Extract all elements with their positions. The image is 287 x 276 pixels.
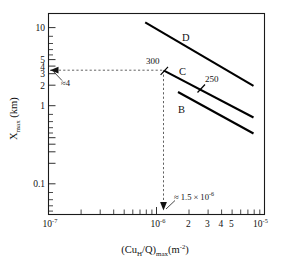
chart-canvas: 10 5 4 3 2 1 0.1 10-7 10-6 2 3 4 5 10-5 … bbox=[0, 0, 287, 276]
x-axis-title: (CuH/Q)max(m-2) bbox=[121, 243, 189, 257]
series-line-D bbox=[145, 22, 253, 86]
y-tick-label-1: 1 bbox=[40, 101, 45, 111]
x-tick-label-5: 5 bbox=[229, 219, 234, 229]
annotation-x-readout-text: ≈1.5×10-6 bbox=[174, 191, 214, 202]
annotation-y-readout: ≈4 bbox=[61, 78, 71, 88]
svg-text:(CuH/Q)max(m-2): (CuH/Q)max(m-2) bbox=[121, 243, 189, 257]
annotation-leaders bbox=[54, 72, 176, 210]
guide-arrowheads bbox=[50, 67, 167, 211]
x-tick-label-2: 2 bbox=[186, 219, 191, 229]
point-label-300: 300 bbox=[146, 56, 160, 66]
x-tick-label-1e-6: 10-6 bbox=[151, 217, 166, 229]
annotation-x-readout: ≈1.5×10-6 bbox=[174, 191, 214, 202]
y-axis-title: Xmax (km) bbox=[8, 97, 22, 140]
plot-frame bbox=[49, 14, 265, 215]
x-tick-label-1e-5: 10-5 bbox=[253, 217, 268, 229]
x-tick-label-4: 4 bbox=[219, 219, 224, 229]
y-tick-label-3: 3 bbox=[40, 69, 45, 79]
y-tick-label-10: 10 bbox=[36, 23, 46, 33]
svg-text:Xmax (km): Xmax (km) bbox=[8, 97, 22, 140]
series-label-B: B bbox=[178, 104, 185, 115]
guide-lines bbox=[50, 70, 164, 207]
figure-container: 10 5 4 3 2 1 0.1 10-7 10-6 2 3 4 5 10-5 … bbox=[0, 0, 287, 276]
series-label-D: D bbox=[182, 32, 190, 43]
x-tick-labels: 10-7 10-6 2 3 4 5 10-5 bbox=[43, 217, 268, 229]
point-label-250: 250 bbox=[205, 74, 219, 84]
x-tick-label-1e-7: 10-7 bbox=[43, 217, 59, 229]
series-label-C: C bbox=[179, 66, 186, 77]
x-axis-ticks bbox=[81, 207, 264, 215]
y-tick-labels: 10 5 4 3 2 1 0.1 bbox=[33, 23, 45, 189]
annotation-y-readout-text: ≈4 bbox=[61, 78, 71, 88]
y-tick-label-2: 2 bbox=[40, 81, 45, 91]
y-axis-ticks bbox=[49, 28, 56, 212]
x-tick-label-3: 3 bbox=[205, 219, 210, 229]
y-tick-label-0-1: 0.1 bbox=[33, 179, 45, 189]
